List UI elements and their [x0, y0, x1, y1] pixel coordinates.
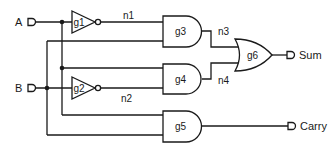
junction-b: [45, 86, 50, 91]
net-label-n2: n2: [121, 93, 133, 104]
input-port-b: B: [15, 82, 36, 94]
output-label-carry: Carry: [300, 120, 327, 132]
gate-g5-and: g5: [163, 111, 202, 142]
port-a-icon: [28, 19, 36, 26]
junction-a: [60, 20, 65, 25]
gate-g2-not: g2: [72, 77, 101, 99]
gate-g4-and: g4: [163, 64, 201, 94]
half-adder-circuit: A B: [0, 0, 335, 155]
output-port-carry: Carry: [288, 120, 327, 132]
gate-label-g4: g4: [175, 74, 187, 85]
gate-g1-not: g1: [72, 11, 101, 33]
gate-g3-and: g3: [163, 16, 202, 47]
input-label-a: A: [15, 16, 23, 28]
net-label-n1: n1: [123, 10, 135, 21]
gate-g6-or: g6: [235, 39, 272, 71]
input-port-a: A: [15, 16, 36, 28]
port-b-icon: [28, 85, 36, 92]
gate-label-g2: g2: [74, 83, 86, 94]
gate-label-g1: g1: [74, 17, 86, 28]
gate-label-g3: g3: [175, 26, 187, 37]
net-label-n3: n3: [218, 26, 230, 37]
output-label-sum: Sum: [299, 49, 322, 61]
input-label-b: B: [15, 82, 22, 94]
port-sum-icon: [287, 52, 295, 59]
gate-label-g5: g5: [175, 121, 187, 132]
port-carry-icon: [288, 123, 296, 130]
output-port-sum: Sum: [287, 49, 322, 61]
gate-label-g6: g6: [247, 50, 259, 61]
junction-a-g4: [60, 66, 65, 71]
net-label-n4: n4: [218, 75, 230, 86]
